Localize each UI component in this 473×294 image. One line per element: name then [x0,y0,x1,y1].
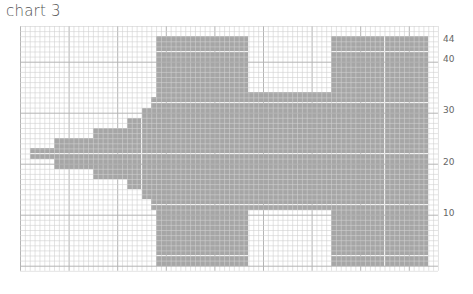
row-label: 44 [443,34,454,44]
row-label: 20 [443,157,454,167]
stitch-grid [20,26,438,271]
row-label: 10 [443,208,454,218]
chart-title: chart 3 [6,2,61,20]
grid-lines [20,26,439,272]
row-label: 30 [443,105,454,115]
row-label: 40 [443,54,454,64]
